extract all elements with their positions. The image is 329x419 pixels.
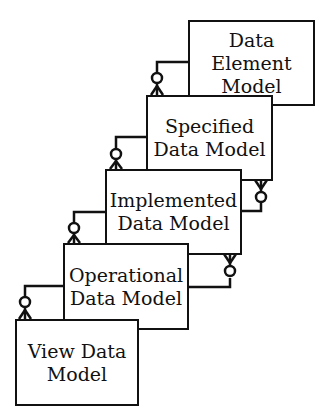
- operational-data-model-box: Operational Data Model: [63, 243, 189, 330]
- data-element-model-box: Data Element Model: [188, 20, 315, 106]
- box-label: View Data Model: [28, 340, 127, 386]
- box-label: Data Element Model: [211, 29, 291, 98]
- box-label: Operational Data Model: [69, 264, 183, 310]
- view-data-model-box: View Data Model: [15, 319, 139, 406]
- box-label: Specified Data Model: [154, 115, 266, 161]
- box-label: Implemented Data Model: [110, 189, 238, 235]
